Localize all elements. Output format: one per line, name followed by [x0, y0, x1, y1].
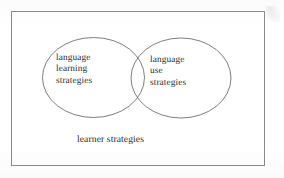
- set-label-right-line-2: use: [150, 66, 186, 77]
- set-label-right-line-1: language: [150, 55, 186, 66]
- venn-diagram-figure: language learning strategies language us…: [0, 0, 284, 178]
- set-label-left-line-2: learning: [56, 64, 92, 75]
- set-label-left: language learning strategies: [56, 53, 92, 87]
- set-label-right: language use strategies: [150, 55, 186, 89]
- diagram-canvas: [0, 0, 284, 178]
- set-label-left-line-1: language: [56, 53, 92, 64]
- set-label-left-line-3: strategies: [56, 76, 92, 87]
- set-label-right-line-3: strategies: [150, 78, 186, 89]
- diagram-caption: learner strategies: [77, 134, 144, 146]
